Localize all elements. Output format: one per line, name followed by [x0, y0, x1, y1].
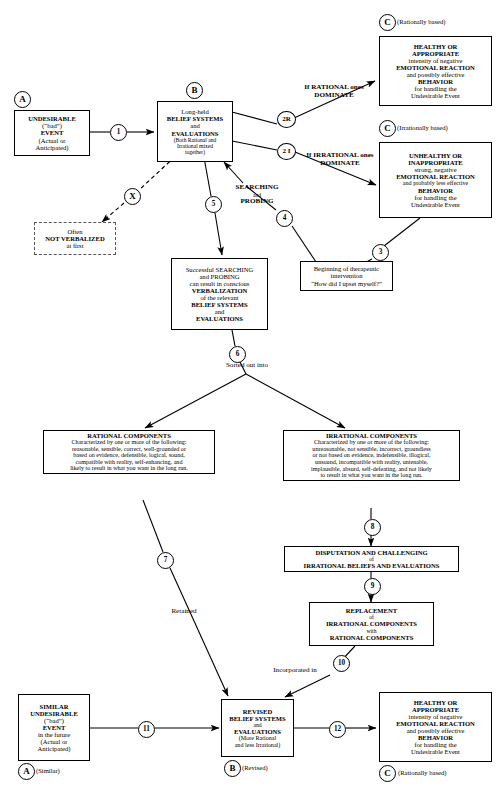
edge-label-line: PROBING	[224, 198, 290, 206]
node-line: Anticipated)	[18, 144, 86, 151]
node-line: and	[161, 122, 229, 129]
marker-a-event: A	[14, 91, 31, 108]
edge-marker-7: 7	[157, 552, 174, 569]
edge-marker-4: 4	[276, 210, 293, 227]
node-line: unreasonable, not sensible, incorrect, g…	[287, 446, 456, 453]
node-line: BEHAVIOR	[383, 78, 488, 85]
node-line: INAPPROPRIATE	[383, 159, 488, 166]
node-line: REVISED	[225, 708, 290, 715]
node-line: based on evidence, defensible, logical, …	[47, 452, 211, 459]
node-line: likely to result in what you want in the…	[47, 465, 211, 472]
node-line: intensity of negative	[383, 713, 488, 720]
node-belief-systems: Long-held BELIEF SYSTEMS and EVALUATIONS…	[157, 101, 233, 162]
diagram-canvas: A UNDESIRABLE (“bad”) EVENT (Actual or A…	[0, 0, 496, 794]
node-verbalization: Successful SEARCHING and PROBING can res…	[171, 258, 268, 330]
node-line: BEHAVIOR	[383, 187, 488, 194]
node-line: Long-held	[161, 108, 229, 115]
node-line: (Actual or	[22, 738, 86, 745]
node-line: REPLACEMENT	[313, 607, 430, 614]
marker-note-c-final: (Rationally based)	[398, 769, 488, 776]
edge-marker-5: 5	[205, 196, 222, 213]
marker-c-unhealthy: C	[379, 120, 396, 137]
node-line: for handling the	[383, 85, 488, 92]
node-line: and possibly effective	[383, 71, 488, 78]
edge-marker-10: 10	[333, 655, 350, 672]
node-line: EMOTIONAL REACTION	[383, 173, 488, 180]
node-line: at first	[38, 242, 112, 249]
node-line: EVENT	[22, 724, 86, 731]
node-heading: RATIONAL COMPONENTS	[47, 432, 211, 439]
node-heading: IRRATIONAL COMPONENTS	[287, 432, 456, 439]
node-line: (More Rational	[225, 735, 290, 742]
node-line: Characterized by one or more of the foll…	[287, 439, 456, 446]
node-line: HEALTHY OR	[383, 43, 488, 50]
node-line: Often	[38, 228, 112, 235]
node-line: DISPUTATION AND CHALLENGING	[288, 549, 455, 556]
node-line: reasonable, sensible, correct, well-grou…	[47, 446, 211, 453]
node-revised-beliefs: REVISED BELIEF SYSTEMS and EVALUATIONS (…	[221, 699, 294, 757]
node-line: and possibly effective	[383, 727, 488, 734]
marker-c-healthy: C	[379, 14, 396, 31]
node-line: compatible with reality, self-enhancing,…	[47, 459, 211, 466]
edge-label-line: DOMINATE	[284, 92, 384, 100]
node-line: Beginning of therapeutic	[304, 265, 389, 272]
edge-marker-11: 11	[138, 721, 155, 738]
node-line: IRRATIONAL COMPONENTS	[313, 620, 430, 627]
node-replacement: REPLACEMENT of IRRATIONAL COMPONENTS wit…	[309, 602, 434, 646]
edge-label-retained: Retained	[160, 608, 208, 616]
edge-label-if-rational: If RATIONAL ones DOMINATE	[284, 84, 384, 100]
node-line: in the future	[22, 731, 86, 738]
edge-label-if-irrational: If IRRATIONAL ones DOMINATE	[288, 152, 392, 168]
node-line: UNDESIRABLE	[22, 710, 86, 717]
node-healthy-reaction: HEALTHY OR APPROPRIATE intensity of nega…	[379, 36, 492, 106]
edge-label-sorted-out-into: Sorted out into	[202, 362, 292, 370]
node-line: BELIEF SYSTEMS	[161, 115, 229, 122]
node-line: BEHAVIOR	[383, 734, 488, 741]
node-line: (“bad”)	[18, 122, 86, 129]
node-therapeutic-intervention: Beginning of therapeutic intervention “H…	[300, 261, 393, 291]
node-irrational-components: IRRATIONAL COMPONENTS Characterized by o…	[283, 430, 460, 481]
node-line: APPROPRIATE	[383, 50, 488, 57]
marker-c-final: C	[379, 765, 396, 782]
node-line: together)	[161, 149, 229, 155]
marker-b-beliefs: B	[186, 82, 203, 99]
edge-marker-9: 9	[364, 578, 381, 595]
node-line: UNHEALTHY OR	[383, 152, 488, 159]
node-not-verbalized: Often NOT VERBALIZED at first	[34, 222, 116, 255]
edge-marker-3: 3	[372, 244, 389, 261]
node-line: Undesirable Event	[383, 201, 488, 208]
node-line: and less Irrational)	[225, 742, 290, 749]
marker-b-revised: B	[224, 760, 241, 777]
node-line: Successful SEARCHING	[175, 266, 264, 273]
node-line: EVALUATIONS	[225, 728, 290, 735]
node-rational-components: RATIONAL COMPONENTS Characterized by one…	[43, 430, 215, 474]
node-line: or not based on evidence, indefensible, …	[287, 452, 456, 459]
node-line: to result in what you want in the long r…	[287, 472, 456, 479]
node-final-healthy-reaction: HEALTHY OR APPROPRIATE intensity of nega…	[379, 692, 492, 762]
node-line: intensity of negative	[383, 57, 488, 64]
node-line: NOT VERBALIZED	[38, 235, 112, 242]
node-line: for handling the	[383, 194, 488, 201]
node-line: HEALTHY OR	[383, 699, 488, 706]
node-line: of the relevant	[175, 294, 264, 301]
node-line: and probably less effective	[383, 180, 488, 187]
marker-note-c-healthy: (Rationally based)	[397, 18, 487, 25]
node-line: strong, negative	[383, 166, 488, 173]
node-line: (“bad”)	[22, 717, 86, 724]
node-similar-event: SIMILAR UNDESIRABLE (“bad”) EVENT in the…	[18, 694, 90, 761]
node-line: implausible, absurd, self-defeating, and…	[287, 466, 456, 473]
node-line: Undesirable Event	[383, 748, 488, 755]
node-line: APPROPRIATE	[383, 706, 488, 713]
edge-label-line: DOMINATE	[288, 160, 392, 168]
node-line: and PROBING	[175, 273, 264, 280]
node-line: RATIONAL COMPONENTS	[313, 634, 430, 641]
node-line: Anticipated)	[22, 745, 86, 752]
node-line: SIMILAR	[22, 703, 86, 710]
node-line: IRRATIONAL BELIEFS AND EVALUATIONS	[288, 562, 455, 569]
marker-note-b-revised: (Revised)	[242, 764, 300, 771]
node-line: (Actual or	[18, 137, 86, 144]
node-line: for handling the	[383, 741, 488, 748]
edge-marker-1: 1	[110, 124, 127, 141]
node-line: EMOTIONAL REACTION	[383, 720, 488, 727]
edge-marker-2r: 2R	[277, 111, 296, 128]
